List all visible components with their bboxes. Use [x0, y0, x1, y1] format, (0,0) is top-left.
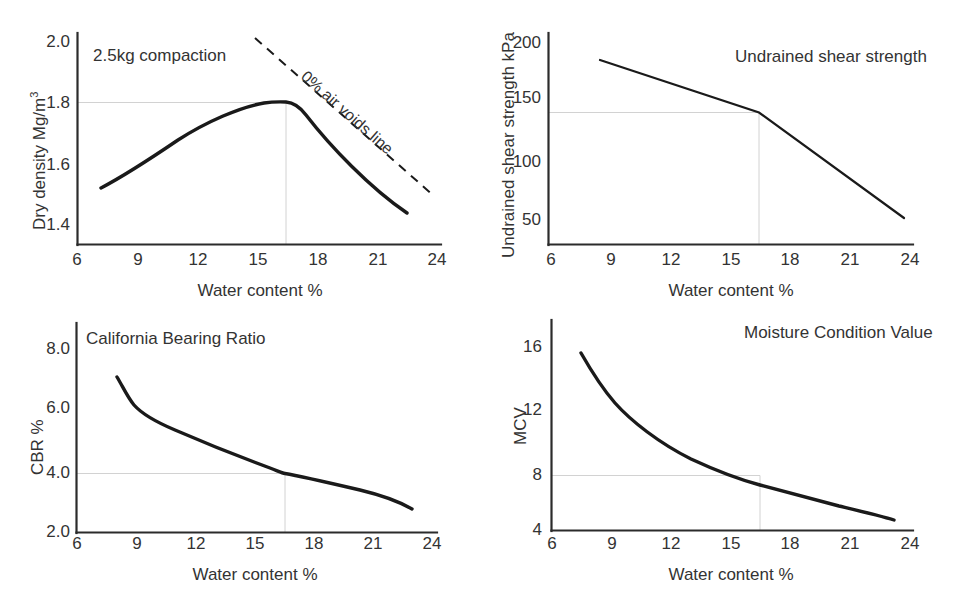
mcv-curve — [581, 353, 894, 520]
plot-area-undrained-shear-strength — [479, 0, 958, 295]
chart-panel-california-bearing-ratio: CBR % California Bearing Ratio 8.0 6.0 4… — [0, 295, 479, 589]
chart-panel-moisture-condition-value: MCV Moisture Condition Value 16 12 8 4 6… — [479, 295, 958, 589]
chart-panel-undrained-shear-strength: Undrained shear strength kPa Undrained s… — [479, 0, 958, 295]
air-voids-annotation: 0% air voids line — [298, 68, 397, 158]
undrained-shear-strength-line — [600, 60, 904, 218]
plot-area-dry-density: 0% air voids line — [0, 0, 479, 295]
plot-area-moisture-condition-value — [479, 295, 958, 589]
plot-area-california-bearing-ratio — [0, 295, 479, 589]
chart-panel-dry-density: Dry density Mg/m3 2.5kg compaction 2.0 1… — [0, 0, 479, 295]
cbr-curve — [117, 377, 412, 509]
